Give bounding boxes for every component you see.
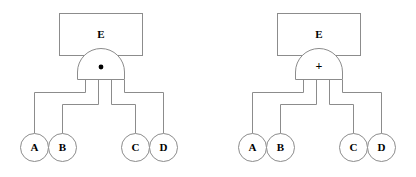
wire-gate-to-a <box>253 80 304 134</box>
right-diagram: E + A B C D <box>0 0 416 177</box>
basic-event-b-label: B <box>277 141 285 153</box>
figure-canvas: E · A B C D E <box>0 0 416 177</box>
wire-gate-to-b <box>281 80 317 134</box>
right-wires <box>253 80 382 134</box>
right-basic-events: A B C D <box>239 134 396 162</box>
top-event-label: E <box>315 28 322 40</box>
basic-event-a-label: A <box>249 141 257 153</box>
or-gate-plus-icon: + <box>316 59 323 73</box>
basic-event-d-label: D <box>378 141 386 153</box>
wire-gate-to-d <box>343 80 382 134</box>
basic-event-c-label: C <box>350 141 358 153</box>
wire-gate-to-c <box>330 80 354 134</box>
